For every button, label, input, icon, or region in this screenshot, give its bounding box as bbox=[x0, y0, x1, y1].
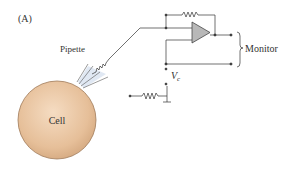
command-source bbox=[129, 86, 171, 102]
voltage-clamp-diagram: (A) Cell Pipette bbox=[0, 0, 298, 169]
monitor-brace bbox=[237, 32, 243, 67]
panel-label: (A) bbox=[18, 13, 32, 25]
vc-label: Vc bbox=[171, 70, 181, 83]
output-line bbox=[210, 34, 232, 36]
op-amp bbox=[192, 22, 210, 43]
pipette-label: Pipette bbox=[60, 44, 85, 54]
monitor-label: Monitor bbox=[245, 43, 278, 54]
pipette: Pipette bbox=[60, 44, 108, 88]
cell: Cell bbox=[18, 81, 96, 159]
electrode-wire bbox=[92, 28, 192, 74]
cell-label: Cell bbox=[49, 115, 66, 126]
